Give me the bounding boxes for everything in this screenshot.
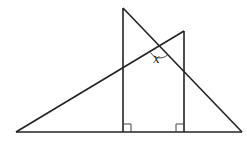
right-angle-marker-right	[176, 124, 184, 132]
right-angle-marker-left	[123, 124, 131, 132]
angle-x-label: x	[153, 53, 160, 65]
hypotenuse-right-triangle-a	[123, 8, 242, 132]
geometry-diagram: x	[0, 0, 247, 155]
hypotenuse-right-triangle-b	[16, 31, 184, 132]
diagram-svg	[0, 0, 247, 155]
